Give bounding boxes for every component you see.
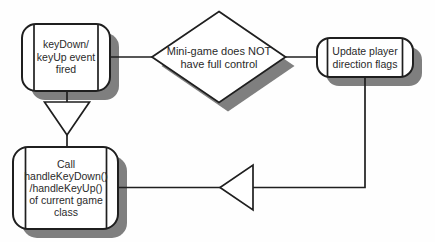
call-handler-label-line4: of current game — [29, 194, 103, 206]
call-handler-label-line1: Call — [57, 158, 75, 170]
update-flags-label-line1: Update player — [332, 45, 398, 57]
node-event-fired: keyDown/ keyUp event fired — [22, 24, 110, 91]
event-fired-label-line3: fired — [56, 63, 77, 75]
flowchart-canvas: keyDown/ keyUp event fired Mini-game doe… — [0, 0, 435, 242]
event-fired-label-line1: keyDown/ — [43, 38, 89, 50]
call-handler-label-line3: /handleKeyUp() — [30, 182, 103, 194]
update-flags-label-line2: direction flags — [333, 58, 398, 70]
decision-label-line1: Mini-game does NOT — [167, 45, 272, 57]
node-decision: Mini-game does NOT have full control — [152, 12, 286, 103]
decision-diamond — [152, 12, 286, 103]
node-call-handler: Call handleKeyDown() /handleKeyUp() of c… — [13, 147, 118, 229]
flowchart-svg: keyDown/ keyUp event fired Mini-game doe… — [0, 0, 435, 242]
decision-label-line2: have full control — [180, 58, 257, 70]
node-update-flags: Update player direction flags — [317, 38, 413, 77]
arrowhead-down-icon — [45, 102, 90, 135]
call-handler-label-line5: class — [54, 206, 78, 218]
event-fired-label-line2: keyUp event — [37, 51, 95, 63]
arrowhead-left-icon — [220, 165, 253, 210]
call-handler-label-line2: handleKeyDown() — [24, 170, 107, 182]
